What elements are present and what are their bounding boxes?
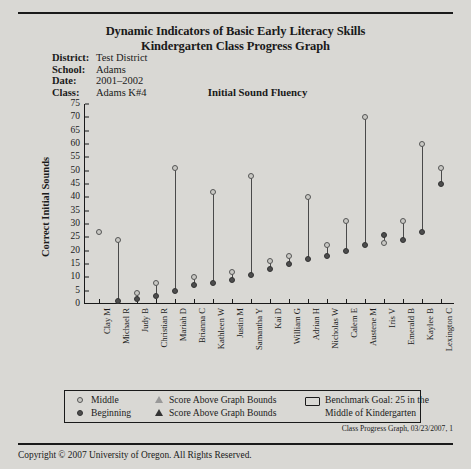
legend-label-benchmark-line-2: Middle of Kindergarten [325,406,416,419]
data-point-beginning [191,282,197,288]
x-axis-student-label: Adrian H [311,308,321,340]
progress-connector-line [213,192,214,283]
y-axis-tick-mark [85,290,89,291]
y-axis-tick-mark [85,157,89,158]
data-point-middle [115,237,121,243]
y-axis-tick-label: 65 [44,126,85,136]
data-point-middle [172,165,178,171]
data-point-beginning [172,288,178,294]
legend-label-above-bounds-open: Score Above Graph Bounds [169,393,276,406]
metadata-value-school: Adams [96,64,126,76]
x-axis-student-label: Austene M [368,308,378,346]
data-point-middle [419,141,425,147]
data-point-beginning [286,261,292,267]
data-point-middle [229,269,235,275]
legend-row-beginning: Beginning Score Above Graph Bounds Middl… [65,406,420,420]
y-axis-tick-mark [85,250,89,251]
metadata-label-district: District: [52,52,96,64]
data-point-beginning [419,229,425,235]
y-axis-tick-mark [85,210,89,211]
legend-label-above-bounds-solid: Score Above Graph Bounds [169,406,276,419]
x-axis-tick-mark [308,299,309,303]
data-point-middle [248,173,254,179]
y-axis-tick-mark [85,224,89,225]
x-axis-student-label: Brianna C [197,308,207,343]
data-point-beginning [115,298,121,304]
x-axis-tick-mark [327,299,328,303]
y-axis-tick-mark [85,237,89,238]
chart-legend: Middle Score Above Graph Bounds Benchmar… [64,390,421,423]
data-point-beginning [229,277,235,283]
y-axis-tick-label: 10 [44,273,85,283]
x-axis-tick-mark [251,299,252,303]
x-axis-student-label: Iris V [387,308,397,328]
data-point-beginning [438,181,444,187]
open-circle-icon [77,397,83,403]
y-axis-tick-label: 5 [44,286,85,296]
x-axis-student-label: Mariah D [178,308,188,341]
data-point-beginning [381,232,387,238]
y-axis-tick-mark [85,144,89,145]
y-axis-tick-label: 55 [44,153,85,163]
x-axis-tick-mark [289,299,290,303]
data-point-beginning [343,248,349,254]
metadata-label-school: School: [52,64,96,76]
data-point-beginning [134,296,140,302]
y-axis-tick-label: 45 [44,179,85,189]
top-divider [18,12,453,14]
y-axis-tick-label: 75 [44,99,85,109]
data-point-middle [438,165,444,171]
x-axis-student-label: Justin M [235,308,245,338]
x-axis-tick-mark [175,299,176,303]
data-point-beginning [400,237,406,243]
data-point-middle [400,218,406,224]
progress-graph-page: Dynamic Indicators of Basic Early Litera… [0,0,471,469]
y-axis-tick-mark [85,104,89,105]
data-point-middle [153,280,159,286]
progress-connector-line [346,221,347,250]
y-axis-tick-mark [85,277,89,278]
progress-connector-line [251,176,252,275]
filled-circle-icon [77,410,83,416]
metadata-row-district: District:Test District [52,52,147,64]
y-axis-tick-label: 50 [44,166,85,176]
bottom-divider [18,443,453,445]
y-axis-tick-mark [85,197,89,198]
y-axis-tick-label: 30 [44,219,85,229]
data-point-middle [134,290,140,296]
y-axis-tick-label: 35 [44,206,85,216]
measure-title: Initial Sound Fluency [0,86,471,98]
legend-label-middle: Middle [91,393,119,406]
data-point-beginning [210,280,216,286]
x-axis-tick-mark [365,299,366,303]
x-axis-student-label: Clay M [102,308,112,334]
metadata-value-district: Test District [96,52,147,64]
data-point-beginning [267,266,273,272]
x-axis-student-label: Kathleen W [216,308,226,349]
data-point-beginning [248,272,254,278]
data-point-beginning [324,253,330,259]
y-axis-tick-label: 20 [44,246,85,256]
x-axis-student-label: Emerald B [406,308,416,345]
x-axis-student-label: Michael R [121,308,131,344]
y-axis-tick-mark [85,117,89,118]
data-point-middle [286,253,292,259]
x-axis-student-label: Judy B [140,308,150,332]
y-axis-tick-mark [85,264,89,265]
x-axis-tick-mark [403,299,404,303]
y-axis-tick-label: 60 [44,139,85,149]
x-axis-student-label: Calem E [349,308,359,338]
y-axis-tick-mark [85,170,89,171]
data-point-beginning [153,293,159,299]
data-point-middle [343,218,349,224]
x-axis-tick-mark [346,299,347,303]
progress-connector-line [175,168,176,291]
benchmark-box-icon [305,397,320,406]
progress-connector-line [308,197,309,258]
data-point-middle [305,194,311,200]
open-triangle-icon [155,396,163,403]
data-point-beginning [362,242,368,248]
x-axis-tick-mark [156,299,157,303]
x-axis-student-label: Samantha Y [254,308,264,350]
data-point-middle [210,189,216,195]
